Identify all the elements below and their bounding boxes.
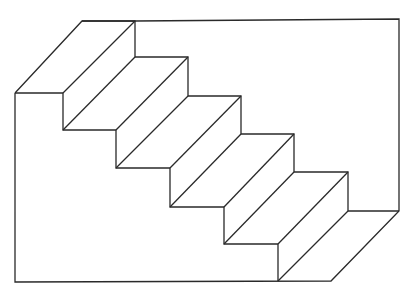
tread-edge [278, 172, 348, 244]
front-step-profile [15, 93, 278, 281]
tread-edge [170, 96, 241, 168]
tread-edge [63, 21, 135, 93]
tread-edge [224, 172, 294, 244]
outline [15, 19, 399, 282]
tread-edge [170, 134, 241, 207]
tread-edge [116, 57, 188, 130]
tread-edges [63, 21, 348, 281]
tread-edge [224, 134, 294, 207]
schroeder-staircase-drawing [0, 0, 414, 305]
tread-edge [278, 211, 348, 281]
tread-edge [63, 57, 135, 130]
tread-edge [116, 96, 188, 168]
